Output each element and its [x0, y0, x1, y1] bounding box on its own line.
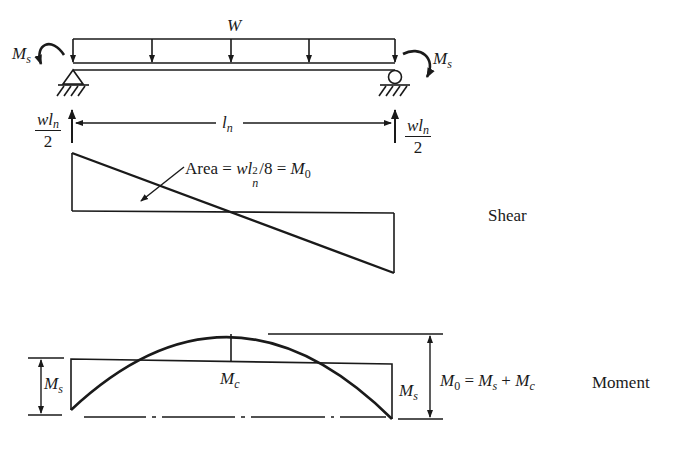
- prefix: Area =: [185, 159, 236, 178]
- left-ms-label: Ms: [44, 375, 63, 392]
- subscript: s: [26, 52, 31, 66]
- moment-title: Moment: [592, 374, 650, 391]
- right-end-moment-label: Ms: [433, 50, 452, 67]
- left-end-moment-arrow-icon: [39, 44, 64, 64]
- reaction-arrows: [72, 110, 395, 143]
- subscript: n: [252, 177, 258, 189]
- right-reaction-label: wln 2: [405, 117, 431, 156]
- subscript: s: [58, 382, 63, 396]
- beam: [73, 63, 395, 70]
- wl: wl: [236, 159, 252, 178]
- distributed-load: [73, 39, 395, 62]
- right-end-moment-arrow-icon: [403, 51, 430, 77]
- shear-title: Shear: [488, 207, 527, 224]
- symbol: M: [12, 44, 26, 63]
- numerator: wln: [35, 111, 61, 131]
- subscript: n: [227, 121, 233, 135]
- equals: =: [460, 371, 478, 390]
- m0-subscript: 0: [454, 379, 460, 393]
- span-label: ln: [222, 114, 233, 131]
- area-pointer-arrow: [141, 167, 184, 201]
- mc-subscript: c: [529, 379, 534, 393]
- denominator: 2: [35, 131, 61, 150]
- roller-support-icon: [379, 71, 410, 97]
- num-sub: n: [53, 117, 59, 131]
- m-symbol: M: [291, 159, 305, 178]
- left-end-moment-label: Ms: [12, 45, 31, 62]
- num-sub: n: [423, 123, 429, 137]
- beam-diagram-canvas: [0, 0, 687, 456]
- m0-equation: M0 = Ms + Mc: [440, 372, 535, 389]
- numerator: wln: [405, 117, 431, 137]
- m-subscript: 0: [305, 167, 311, 181]
- ms-subscript: s: [492, 379, 497, 393]
- right-ms-label: Ms: [399, 382, 418, 399]
- subscript: s: [413, 389, 418, 403]
- symbol: M: [399, 381, 413, 400]
- symbol: M: [44, 374, 58, 393]
- num-text: wl: [37, 110, 53, 129]
- mc-label: Mc: [220, 370, 240, 387]
- subscript: c: [234, 377, 239, 391]
- mid: /8 =: [259, 159, 290, 178]
- symbol: M: [433, 49, 447, 68]
- symbol: M: [220, 369, 234, 388]
- subscript: s: [447, 57, 452, 71]
- shear-area-annotation: Area = wl2n/8 = M0: [185, 160, 311, 177]
- ms-symbol: M: [478, 371, 492, 390]
- plus: +: [497, 371, 515, 390]
- mc-symbol: M: [515, 371, 529, 390]
- denominator: 2: [405, 137, 431, 156]
- exponent: 2: [252, 165, 258, 176]
- num-text: wl: [407, 116, 423, 135]
- left-reaction-label: wln 2: [35, 111, 61, 150]
- m0-symbol: M: [440, 371, 454, 390]
- load-label: W: [227, 17, 241, 34]
- pin-support-icon: [57, 70, 89, 96]
